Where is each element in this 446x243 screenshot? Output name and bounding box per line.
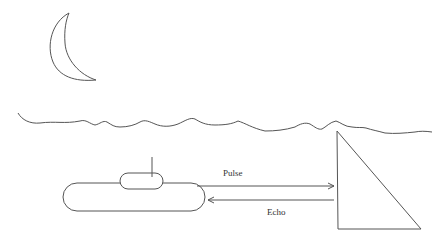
echo-label: Echo <box>267 207 286 217</box>
echo-arrow <box>208 197 334 203</box>
target-triangle <box>337 131 421 229</box>
pulse-label: Pulse <box>223 168 243 178</box>
water-surface <box>18 113 432 133</box>
pulse-arrow <box>197 183 334 189</box>
moon-icon <box>50 13 96 80</box>
submarine-tower <box>120 173 163 189</box>
sonar-diagram <box>0 0 446 243</box>
